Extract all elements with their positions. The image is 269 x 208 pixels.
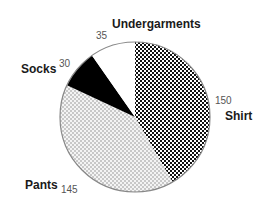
value-shirt: 150 bbox=[215, 95, 232, 106]
label-socks: Socks bbox=[21, 62, 57, 76]
pie-slices bbox=[60, 42, 210, 192]
value-socks: 30 bbox=[59, 58, 71, 69]
label-undergarments: Undergarments bbox=[112, 17, 201, 31]
pie-chart: Undergarments 35 Socks 30 150 Shirt Pant… bbox=[0, 0, 269, 208]
value-undergarments: 35 bbox=[96, 30, 108, 41]
label-pants: Pants bbox=[25, 178, 58, 192]
value-pants: 145 bbox=[61, 184, 78, 195]
label-shirt: Shirt bbox=[225, 109, 252, 123]
